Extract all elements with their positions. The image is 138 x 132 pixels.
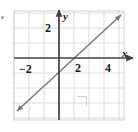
x-tick-label-2: 2 <box>75 62 81 74</box>
x-tick-label-4: 4 <box>105 62 111 74</box>
graph-figure: y x 2 −2 2 4 <box>0 0 138 132</box>
x-tick-label-minus-2: −2 <box>19 63 32 75</box>
y-axis-label: y <box>63 11 68 22</box>
y-tick-label-2: 2 <box>45 22 51 34</box>
page-edge-mark <box>1 16 4 19</box>
scan-artifact-mark <box>77 96 87 106</box>
x-axis-label: x <box>122 48 128 59</box>
